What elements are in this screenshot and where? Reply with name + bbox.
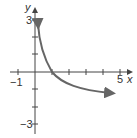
x-tick-label-5: 5: [117, 74, 123, 85]
y-axis-label: y: [25, 2, 31, 13]
x-axis-label: x: [127, 74, 133, 85]
y-tick-label-neg3: −3: [20, 119, 33, 130]
y-tick-label-3: 3: [26, 15, 32, 26]
curve: [38, 24, 110, 93]
x-tick-label-neg1: −1: [10, 77, 23, 88]
